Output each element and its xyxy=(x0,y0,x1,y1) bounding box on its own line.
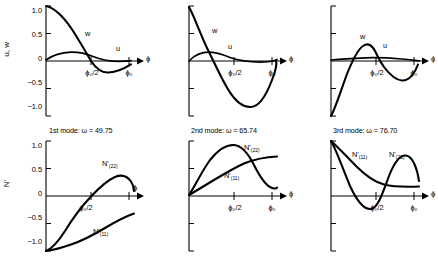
panel-mode3-stress: N'(11) N'(22) ϕ₀/2 ϕ₀ ϕ xyxy=(330,141,430,253)
curve-u-mode3 xyxy=(331,58,419,61)
xtick-end-panel2: ϕ₀ xyxy=(259,68,285,77)
xaxis-label-panel5: ϕ xyxy=(289,189,293,198)
panel-mode1-displacement: w u ϕ₀/2 ϕ₀ ϕ xyxy=(45,6,145,118)
curve-label-w-mode2: w xyxy=(212,26,217,35)
caption-mode1: 1st mode: ω = 49.75 xyxy=(49,126,112,135)
xaxis-label-panel1: ϕ xyxy=(146,54,150,63)
curve-label-w-mode3: w xyxy=(360,32,365,41)
curve-label-n22-mode2: N'(22) xyxy=(244,143,260,153)
curve-n11-mode3 xyxy=(331,141,419,187)
curve-w-mode3 xyxy=(331,44,418,116)
bottom-ytick-5: −1.0 xyxy=(12,237,42,246)
curve-label-n11-mode2: N'(11) xyxy=(224,171,239,181)
caption-mode3: 3rd mode: ω = 76.70 xyxy=(333,126,397,135)
mode-shape-figure: u, w 1.0 0.5 0 −0.5 −1.0 w u ϕ₀/2 ϕ₀ ϕ xyxy=(0,0,438,259)
xtick-mid-panel3: ϕ₀/2 xyxy=(361,68,393,77)
bottom-row-y-axis-label: N' xyxy=(2,180,11,187)
xaxis-label-panel6: ϕ xyxy=(431,189,435,198)
bottom-ytick-3: 0 xyxy=(16,189,42,198)
xtick-mid-panel4: ϕ₀/2 xyxy=(70,203,102,212)
bottom-ytick-1: 1.0 xyxy=(16,141,42,150)
top-ytick-1: 1.0 xyxy=(16,6,42,15)
curve-label-w-mode1: w xyxy=(85,29,90,38)
curve-w-mode1 xyxy=(46,6,131,73)
xtick-end-panel3: ϕ₀ xyxy=(401,68,427,77)
xtick-mid-panel2: ϕ₀/2 xyxy=(219,68,251,77)
curve-label-n22-mode1: N'(22) xyxy=(102,159,118,169)
curve-n22-mode3 xyxy=(331,141,419,209)
curve-label-u-mode3: u xyxy=(383,41,387,50)
panel-mode1-stress: N'(22) N'(11) ϕ₀/2 ϕ xyxy=(45,141,145,253)
xtick-mid-panel1: ϕ₀/2 xyxy=(76,68,108,77)
panel-mode2-stress: N'(22) N'(11) ϕ₀/2 ϕ₀ ϕ xyxy=(188,141,288,253)
curve-sub-22-mode2: (22) xyxy=(251,147,260,153)
curve-label-u-mode1: u xyxy=(116,44,120,53)
curve-sub-22-mode1: (22) xyxy=(109,163,118,169)
caption-mode2: 2nd mode: ω = 65.74 xyxy=(191,126,257,135)
curve-sub-22-mode3: (22) xyxy=(396,154,405,160)
curve-sub-11-mode2: (11) xyxy=(231,175,240,181)
bottom-ytick-2: 0.5 xyxy=(16,165,42,174)
curve-n22-mode1 xyxy=(46,176,134,251)
top-row-y-axis-label: u, w xyxy=(2,42,11,57)
xtick-end-panel6: ϕ₀ xyxy=(401,203,427,212)
curve-sub-11-mode1: (11) xyxy=(100,231,109,237)
xaxis-label-panel4: ϕ xyxy=(133,183,137,192)
xtick-mid-panel5: ϕ₀/2 xyxy=(219,203,251,212)
top-ytick-2: 0.5 xyxy=(16,30,42,39)
curve-label-n22-mode3: N'(22) xyxy=(389,150,405,160)
top-ytick-3: 0 xyxy=(16,54,42,63)
xtick-mid-panel6: ϕ₀/2 xyxy=(361,203,393,212)
curve-label-u-mode2: u xyxy=(228,42,232,51)
bottom-ytick-4: −0.5 xyxy=(12,213,42,222)
xtick-end-panel1: ϕ₀ xyxy=(116,68,142,77)
curve-sub-11-mode3: (11) xyxy=(359,154,368,160)
curve-label-n11-mode3: N'(11) xyxy=(352,150,367,160)
top-ytick-4: −0.5 xyxy=(12,78,42,87)
axes-panel6 xyxy=(331,141,429,251)
panel-mode3-displacement: w u ϕ₀/2 ϕ₀ ϕ xyxy=(330,6,430,118)
xaxis-label-panel3: ϕ xyxy=(431,54,435,63)
curve-n11-mode1 xyxy=(46,214,134,252)
panel-mode2-displacement: w u ϕ₀/2 ϕ₀ ϕ xyxy=(188,6,288,118)
xtick-end-panel5: ϕ₀ xyxy=(259,203,285,212)
xaxis-label-panel2: ϕ xyxy=(289,54,293,63)
top-ytick-5: −1.0 xyxy=(12,102,42,111)
curve-label-n11-mode1: N'(11) xyxy=(93,227,108,237)
curve-w-mode2 xyxy=(189,7,276,107)
